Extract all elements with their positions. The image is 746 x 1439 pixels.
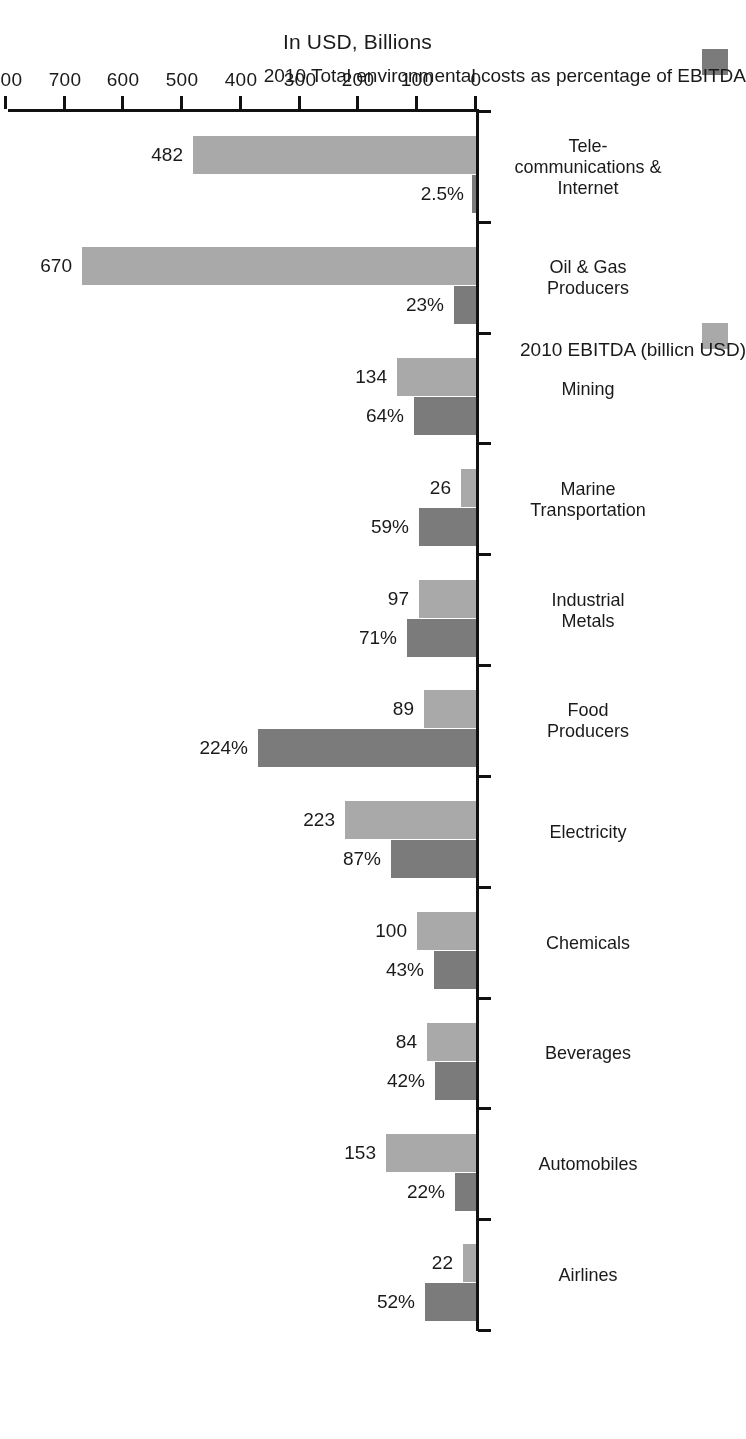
bar-ebitda <box>461 469 476 507</box>
bar-ebitda <box>82 247 476 285</box>
category-label: Chemicals <box>488 933 688 954</box>
category-axis-tick <box>478 442 491 445</box>
category-axis-tick <box>478 1107 491 1110</box>
value-axis-tick <box>474 96 477 109</box>
bar-value-label-env: 59% <box>371 508 409 546</box>
bar-value-label-env: 42% <box>387 1062 425 1100</box>
bar-ebitda <box>419 580 476 618</box>
bar-env-cost <box>425 1283 476 1321</box>
category-axis-tick <box>478 664 491 667</box>
bar-value-label-env: 224% <box>199 729 248 767</box>
bar-value-label-env: 87% <box>343 840 381 878</box>
bar-env-cost <box>391 840 476 878</box>
plot-area: 0100200300400500600700800 AirlinesAutomo… <box>0 0 746 1439</box>
category-axis-tick <box>478 332 491 335</box>
category-label: Mining <box>488 379 688 400</box>
category-axis-tick <box>478 1218 491 1221</box>
bar-ebitda <box>463 1244 476 1282</box>
category-axis-tick <box>478 775 491 778</box>
bar-ebitda <box>417 912 476 950</box>
bar-value-label-env: 22% <box>407 1173 445 1211</box>
category-label: IndustrialMetals <box>488 590 688 632</box>
bar-ebitda <box>345 801 476 839</box>
bar-ebitda <box>193 136 476 174</box>
category-label: Airlines <box>488 1265 688 1286</box>
category-label: Tele-communications &Internet <box>488 136 688 199</box>
value-axis-tick <box>239 96 242 109</box>
legend-label: 2010 Total environmental costs as percen… <box>264 65 746 87</box>
category-axis-tick <box>478 110 491 113</box>
value-axis-title: In USD, Billions <box>283 30 432 54</box>
bar-value-label-ebitda: 670 <box>41 247 73 285</box>
category-axis-tick <box>478 997 491 1000</box>
bar-value-label-ebitda: 89 <box>393 690 414 728</box>
value-axis-tick <box>180 96 183 109</box>
category-label: Automobiles <box>488 1154 688 1175</box>
bar-env-cost <box>455 1173 476 1211</box>
bar-env-cost <box>454 286 476 324</box>
bar-value-label-ebitda: 84 <box>396 1023 417 1061</box>
value-axis-tick <box>4 96 7 109</box>
bar-env-cost <box>472 175 476 213</box>
bar-env-cost <box>419 508 476 546</box>
chart-figure: 0100200300400500600700800 AirlinesAutomo… <box>0 0 746 1439</box>
bar-value-label-env: 52% <box>377 1283 415 1321</box>
value-axis-tick <box>415 96 418 109</box>
value-axis-tick <box>63 96 66 109</box>
bar-value-label-env: 43% <box>386 951 424 989</box>
bar-value-label-env: 71% <box>359 619 397 657</box>
bar-value-label-ebitda: 100 <box>376 912 408 950</box>
value-axis-tick <box>298 96 301 109</box>
category-axis-tick <box>478 886 491 889</box>
legend-label: 2010 EBITDA (billicn USD) <box>520 339 746 361</box>
value-axis-line <box>8 109 479 112</box>
value-axis-tick <box>122 96 125 109</box>
category-label: MarineTransportation <box>488 479 688 521</box>
bar-env-cost <box>258 729 476 767</box>
category-label: FoodProducers <box>488 701 688 743</box>
bar-ebitda <box>424 690 476 728</box>
category-axis-line <box>476 109 479 1331</box>
category-axis-tick <box>478 221 491 224</box>
bar-env-cost <box>435 1062 476 1100</box>
category-label: Oil & GasProducers <box>488 257 688 299</box>
bar-env-cost <box>414 397 476 435</box>
bar-ebitda <box>427 1023 476 1061</box>
bar-value-label-ebitda: 482 <box>151 136 183 174</box>
category-label: Beverages <box>488 1043 688 1064</box>
category-axis-tick <box>478 1329 491 1332</box>
bar-value-label-ebitda: 223 <box>303 801 335 839</box>
bar-env-cost <box>434 951 476 989</box>
bar-value-label-ebitda: 153 <box>344 1134 376 1172</box>
bar-env-cost <box>407 619 476 657</box>
value-axis-tick <box>357 96 360 109</box>
bar-value-label-env: 64% <box>366 397 404 435</box>
bar-value-label-env: 2.5% <box>420 175 463 213</box>
bar-value-label-ebitda: 97 <box>388 580 409 618</box>
bar-value-label-ebitda: 26 <box>430 469 451 507</box>
bar-value-label-ebitda: 22 <box>432 1244 453 1282</box>
value-axis-tick-label: 800 <box>0 69 41 91</box>
bar-value-label-env: 23% <box>406 286 444 324</box>
category-label: Electricity <box>488 822 688 843</box>
bar-ebitda <box>397 358 476 396</box>
bar-value-label-ebitda: 134 <box>356 358 388 396</box>
category-axis-tick <box>478 553 491 556</box>
bar-ebitda <box>386 1134 476 1172</box>
